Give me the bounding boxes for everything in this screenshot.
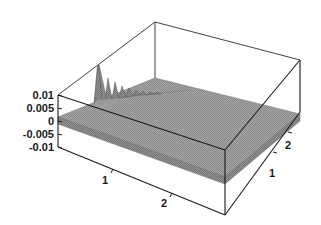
z-tick-label-0: 0.01	[33, 89, 54, 101]
x-tick-label-0: 1	[102, 174, 108, 186]
z-tick-label-1: 0.005	[26, 102, 54, 114]
z-axis-tick-labels: 0.01 0.005 0 -0.005 -0.01	[23, 89, 54, 153]
x-axis-tick-labels: 1 2	[102, 174, 167, 209]
z-axis-ticks	[58, 95, 62, 148]
z-tick-label-2: 0	[48, 115, 54, 127]
y-tick-label-1: 1	[269, 167, 275, 179]
plot-canvas: 0.01 0.005 0 -0.005 -0.01 1 2 2 1	[0, 0, 321, 225]
x-axis-ticks	[111, 169, 172, 197]
z-tick-label-3: -0.005	[23, 128, 54, 140]
y-tick-label-0: 2	[285, 139, 291, 151]
surface-plot-figure: 0.01 0.005 0 -0.005 -0.01 1 2 2 1	[0, 0, 321, 225]
z-tick-label-4: -0.01	[29, 141, 54, 153]
surface-mesh	[58, 78, 300, 184]
x-tick-label-1: 2	[161, 197, 167, 209]
y-axis-tick-labels: 2 1	[269, 139, 291, 179]
